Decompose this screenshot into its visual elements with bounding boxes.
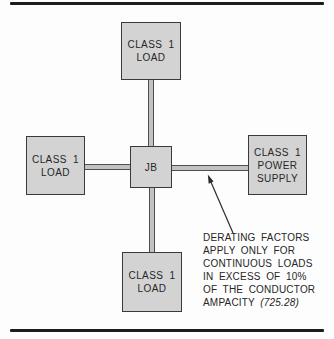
- class1-power-supply-box: CLASS 1 POWER SUPPLY: [248, 135, 307, 195]
- conduit-bottom: [149, 188, 155, 252]
- conduit-top: [148, 80, 154, 146]
- diagram-canvas: CLASS 1 LOAD CLASS 1 LOAD JB CLASS 1 POW…: [0, 0, 334, 339]
- junction-box: JB: [130, 146, 172, 188]
- annotation-line: IN EXCESS OF 10%: [203, 270, 333, 283]
- annotation-line: APPLY ONLY FOR: [203, 244, 333, 257]
- top-rule-divider: [10, 2, 324, 5]
- box-label-line: CLASS 1: [254, 146, 301, 159]
- box-label-line: LOAD: [41, 166, 70, 179]
- annotation-line-final: AMPACITY (725.28): [203, 296, 333, 309]
- box-label-line: LOAD: [138, 282, 167, 295]
- bottom-rule-divider: [10, 329, 324, 332]
- box-label-line: CLASS 1: [32, 153, 79, 166]
- box-label-line: LOAD: [137, 51, 166, 64]
- class1-load-box-bottom: CLASS 1 LOAD: [122, 252, 182, 312]
- box-label-line: JB: [145, 161, 157, 174]
- class1-load-box-left: CLASS 1 LOAD: [26, 136, 85, 195]
- annotation-line: CONTINUOUS LOADS: [203, 257, 333, 270]
- annotation-line: OF THE CONDUCTOR: [203, 283, 333, 296]
- conduit-left: [84, 164, 131, 170]
- box-label-line: CLASS 1: [129, 269, 176, 282]
- box-label-line: SUPPLY: [257, 172, 298, 185]
- annotation-line: DERATING FACTORS: [203, 231, 333, 244]
- box-label-line: CLASS 1: [128, 38, 175, 51]
- conduit-right: [171, 165, 248, 171]
- box-label-line: POWER: [258, 159, 298, 172]
- class1-load-box-top: CLASS 1 LOAD: [121, 22, 181, 80]
- annotation-ampacity-text: AMPACITY: [203, 297, 255, 308]
- code-reference: (725.28): [260, 297, 299, 308]
- derating-annotation: DERATING FACTORS APPLY ONLY FOR CONTINUO…: [203, 231, 333, 309]
